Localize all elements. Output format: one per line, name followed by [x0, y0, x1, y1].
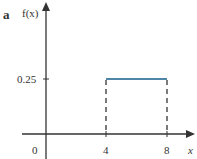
x-axis-arrow-icon: [186, 130, 195, 138]
chart-plot: [0, 0, 197, 159]
y-axis-arrow-icon: [42, 2, 50, 11]
